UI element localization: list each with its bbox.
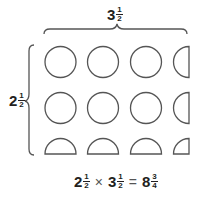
fraction: 1 2 xyxy=(116,6,122,23)
circle-full xyxy=(88,93,119,124)
denominator: 2 xyxy=(83,182,89,190)
fraction: 1 2 xyxy=(18,92,24,109)
circle-half xyxy=(174,47,190,78)
equation: 2 1 2 × 3 1 2 = 8 3 4 xyxy=(74,173,158,190)
fraction: 3 4 xyxy=(151,173,157,190)
left-brace xyxy=(25,45,34,155)
denominator: 4 xyxy=(151,182,157,190)
circle-full xyxy=(131,47,162,78)
circle-half xyxy=(131,139,162,155)
whole-number: 8 xyxy=(142,174,150,189)
factor-1: 2 1 2 xyxy=(74,173,90,190)
result: 8 3 4 xyxy=(142,173,158,190)
top-label: 3 1 2 xyxy=(107,6,123,23)
multiply-sign: × xyxy=(95,174,103,190)
circle-full xyxy=(88,47,119,78)
circle-half xyxy=(45,139,76,155)
whole-number: 3 xyxy=(107,7,115,22)
factor-2: 3 1 2 xyxy=(108,173,124,190)
circle-quarter xyxy=(174,139,190,155)
circle-half xyxy=(88,139,119,155)
whole-number: 2 xyxy=(74,174,82,189)
fraction: 1 2 xyxy=(83,173,89,190)
equals-sign: = xyxy=(129,174,137,190)
fraction: 1 2 xyxy=(117,173,123,190)
circle-full xyxy=(45,47,76,78)
top-brace xyxy=(44,24,187,34)
denominator: 2 xyxy=(116,15,122,23)
whole-number: 3 xyxy=(108,174,116,189)
circle-full xyxy=(131,93,162,124)
circle-half xyxy=(174,93,189,124)
denominator: 2 xyxy=(18,101,24,109)
circle-full xyxy=(45,93,76,124)
denominator: 2 xyxy=(117,182,123,190)
left-label: 2 1 2 xyxy=(9,92,25,109)
whole-number: 2 xyxy=(9,93,17,108)
